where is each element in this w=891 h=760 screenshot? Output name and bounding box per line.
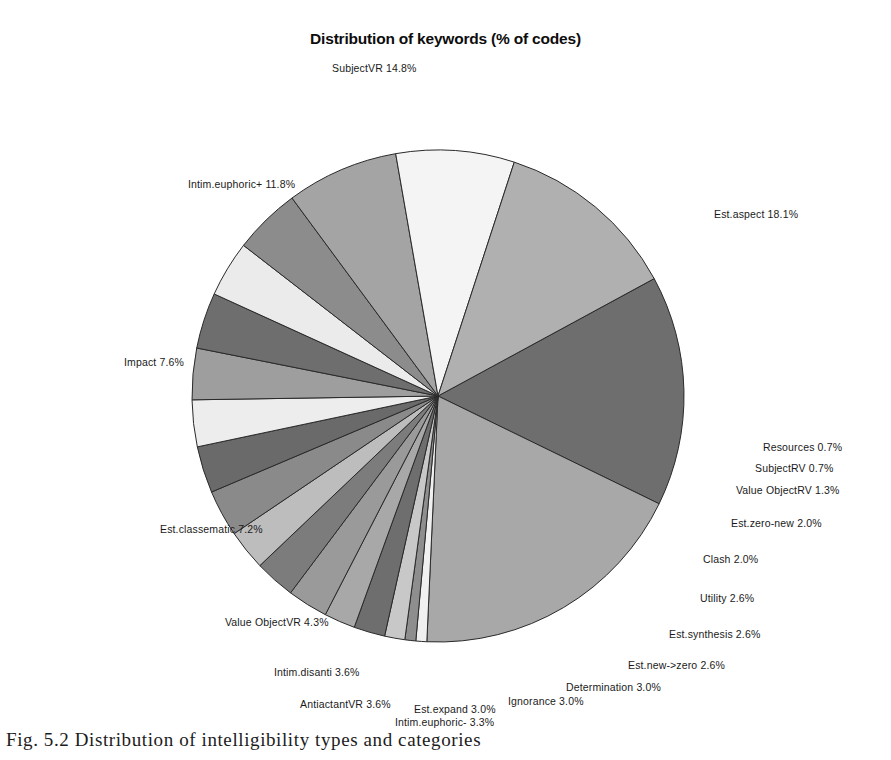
pie-slice-label: Ignorance 3.0%: [508, 695, 584, 707]
pie-slice-label: SubjectRV 0.7%: [755, 462, 833, 474]
pie-slices-group: [192, 150, 684, 642]
pie-slice-label: Resources 0.7%: [763, 441, 842, 453]
pie-slice-label: Intim.disanti 3.6%: [274, 666, 360, 678]
pie-slice-label: Est.synthesis 2.6%: [669, 628, 760, 640]
pie-slice-label: Est.new->zero 2.6%: [628, 659, 725, 671]
pie-slice-label: Est.zero-new 2.0%: [731, 517, 822, 529]
pie-chart: [0, 0, 891, 760]
pie-slice-label: AntiactantVR 3.6%: [300, 698, 391, 710]
pie-slice-label: SubjectVR 14.8%: [332, 62, 417, 74]
figure-caption: Fig. 5.2 Distribution of intelligibility…: [6, 729, 866, 751]
pie-slice-label: Est.classematic 7.2%: [160, 523, 263, 535]
figure-container: Distribution of keywords (% of codes) Su…: [0, 0, 891, 760]
pie-slice-label: Intim.euphoric+ 11.8%: [188, 178, 295, 190]
pie-slice-label: Utility 2.6%: [700, 592, 754, 604]
pie-slice-label: Determination 3.0%: [566, 681, 661, 693]
pie-slice-label: Est.aspect 18.1%: [714, 208, 798, 220]
pie-slice-label: Intim.euphoric- 3.3%: [395, 716, 494, 728]
pie-slice-label: Impact 7.6%: [124, 356, 184, 368]
pie-slice-label: Value ObjectRV 1.3%: [736, 484, 839, 496]
pie-slice-label: Value ObjectVR 4.3%: [225, 616, 329, 628]
pie-slice-label: Est.expand 3.0%: [414, 703, 496, 715]
pie-slice-label: Clash 2.0%: [703, 553, 758, 565]
